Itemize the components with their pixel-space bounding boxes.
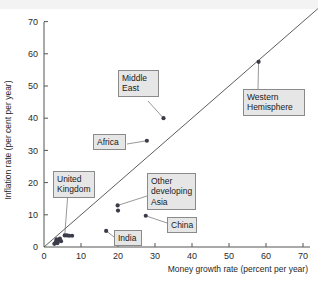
scatter-plot: 010203040506070 010203040506070 Inflatio… [0,0,318,283]
x-tick-label: 70 [298,251,308,261]
y-axis-ticks [44,22,48,215]
chart-figure: 010203040506070 010203040506070 Inflatio… [0,0,318,283]
y-tick-label: 60 [28,49,38,59]
x-tick-label: 40 [187,251,197,261]
callout-middle-east[interactable]: Middle East [118,70,159,97]
callout-western-hemisphere[interactable]: Western Hemisphere [243,89,305,116]
data-point [257,60,261,64]
leader-line [118,196,147,205]
leader-line [148,101,164,118]
x-tick-label: 20 [113,251,123,261]
forty-five-degree-line [44,9,318,247]
x-tick-label: 50 [224,251,234,261]
y-tick-label: 70 [28,17,38,27]
x-tick-label: 0 [41,251,46,261]
y-tick-label: 10 [28,210,38,220]
x-tick-label: 30 [150,251,160,261]
data-point [161,116,165,120]
data-point [116,203,120,207]
x-tick-labels: 010203040506070 [41,251,308,261]
leader-line [146,216,167,223]
callout-india[interactable]: India [114,230,142,246]
callout-china[interactable]: China [167,217,197,233]
leader-line [258,62,259,89]
data-point [145,139,149,143]
callout-other-developing-asia[interactable]: Other developing Asia [147,173,196,210]
data-point [59,239,63,243]
y-tick-label: 0 [33,242,38,252]
leader-line [127,141,147,144]
callout-united-kingdom[interactable]: United Kingdom [53,171,95,198]
data-point [144,214,148,218]
x-tick-label: 10 [76,251,86,261]
x-tick-label: 60 [261,251,271,261]
data-point [104,229,108,233]
x-axis-title: Money growth rate (percent per year) [168,264,308,274]
data-point [116,209,120,213]
y-tick-label: 20 [28,178,38,188]
y-tick-label: 50 [28,81,38,91]
data-point [70,234,74,238]
axes-group [44,22,310,247]
y-tick-label: 40 [28,113,38,123]
leader-line [65,192,68,235]
y-axis-title: Inflation rate (per cent per year) [3,80,13,199]
callout-africa[interactable]: Africa [93,134,126,150]
y-tick-labels: 010203040506070 [28,17,38,252]
y-tick-label: 30 [28,146,38,156]
